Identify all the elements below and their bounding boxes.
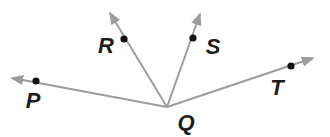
- ray-QS: [167, 14, 200, 107]
- point-P-label: P: [26, 88, 41, 113]
- geometry-diagram: PRSTQ: [0, 0, 330, 137]
- point-S-dot: [189, 34, 196, 41]
- point-R-dot: [120, 35, 127, 42]
- point-R-label: R: [98, 33, 114, 58]
- point-S-label: S: [206, 34, 221, 59]
- point-T-label: T: [270, 75, 285, 100]
- vertex-Q-label: Q: [177, 110, 194, 135]
- diagram-canvas: PRSTQ: [0, 0, 330, 137]
- point-T-dot: [287, 62, 294, 69]
- ray-QR: [110, 13, 167, 107]
- point-P-dot: [32, 77, 39, 84]
